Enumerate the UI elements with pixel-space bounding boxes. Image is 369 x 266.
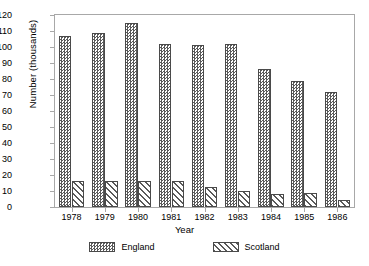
bar-scotland-1979 — [105, 181, 118, 207]
bar-england-1982 — [192, 45, 205, 207]
x-tick-mark — [105, 208, 106, 212]
bar-scotland-1978 — [72, 181, 85, 207]
legend-label-scotland: Scotland — [245, 242, 280, 252]
x-tick-mark — [304, 208, 305, 212]
bar-england-1984 — [258, 69, 271, 207]
legend-swatch-scotland-icon — [213, 242, 239, 252]
y-tick-label: 30 — [0, 155, 12, 164]
bar-group — [258, 15, 284, 207]
legend-item-scotland: Scotland — [213, 242, 280, 252]
bar-england-1986 — [325, 92, 338, 207]
bar-group — [59, 15, 85, 207]
bars-container — [55, 15, 354, 207]
y-tick-label: 60 — [0, 107, 12, 116]
bar-group — [225, 15, 251, 207]
y-tick-label: 100 — [0, 43, 12, 52]
x-tick-mark — [171, 208, 172, 212]
bar-england-1985 — [291, 81, 304, 207]
legend-label-england: England — [121, 242, 154, 252]
x-axis-label: Year — [0, 224, 369, 235]
bar-scotland-1984 — [271, 194, 284, 207]
bar-england-1983 — [225, 44, 238, 207]
y-tick-label: 50 — [0, 123, 12, 132]
y-axis-label: Number (thousands) — [26, 0, 40, 144]
chart-legend: England Scotland — [0, 242, 369, 252]
bar-group — [192, 15, 218, 207]
y-tick-label: 110 — [0, 27, 12, 36]
bar-scotland-1985 — [304, 193, 317, 207]
x-tick-mark — [72, 208, 73, 212]
bar-chart-figure: Number (thousands) 010203040506070809010… — [0, 0, 369, 266]
bar-scotland-1982 — [205, 187, 218, 207]
y-tick-label: 10 — [0, 187, 12, 196]
bar-england-1980 — [125, 23, 138, 207]
y-tick-label: 120 — [0, 11, 12, 20]
legend-swatch-england-icon — [89, 242, 115, 252]
bar-group — [92, 15, 118, 207]
x-tick-mark — [238, 208, 239, 212]
bar-scotland-1983 — [238, 191, 251, 207]
bar-group — [325, 15, 351, 207]
bar-scotland-1981 — [172, 181, 185, 207]
legend-item-england: England — [89, 242, 154, 252]
bar-england-1978 — [59, 36, 72, 207]
y-tick-label: 90 — [0, 59, 12, 68]
y-tick-label: 20 — [0, 171, 12, 180]
x-tick-mark — [337, 208, 338, 212]
bar-group — [159, 15, 185, 207]
bar-england-1981 — [159, 44, 172, 207]
x-tick-mark — [138, 208, 139, 212]
bar-scotland-1986 — [338, 200, 351, 207]
y-tick-label: 0 — [0, 203, 12, 212]
bar-group — [125, 15, 151, 207]
y-tick-label: 40 — [0, 139, 12, 148]
x-tick-label: 1986 — [317, 212, 357, 222]
y-tick-label: 70 — [0, 91, 12, 100]
x-tick-mark — [271, 208, 272, 212]
y-tick-label: 80 — [0, 75, 12, 84]
x-tick-mark — [205, 208, 206, 212]
bar-scotland-1980 — [138, 181, 151, 207]
bar-england-1979 — [92, 33, 105, 207]
bar-group — [291, 15, 317, 207]
